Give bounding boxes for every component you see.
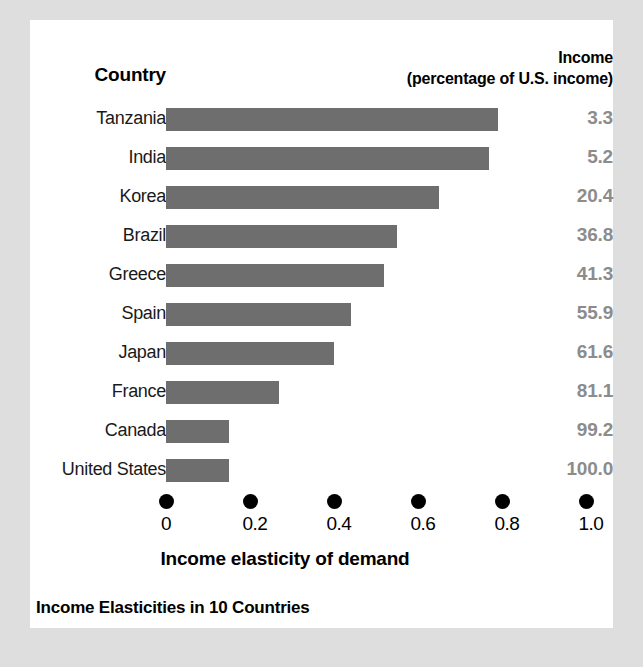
x-axis-tick-dot bbox=[411, 494, 426, 509]
row-value-income: 5.2 bbox=[485, 146, 613, 168]
row-value-income: 100.0 bbox=[485, 458, 613, 480]
row-label-country: United States bbox=[30, 459, 166, 480]
x-axis-tick: 0 bbox=[159, 494, 174, 535]
row-value-income: 81.1 bbox=[485, 380, 613, 402]
x-axis-tick: 0.4 bbox=[327, 494, 342, 535]
bar bbox=[166, 303, 351, 326]
row-label-country: Spain bbox=[30, 303, 166, 324]
row-label-country: Japan bbox=[30, 342, 166, 363]
row-value-income: 3.3 bbox=[485, 107, 613, 129]
x-axis-tick-dot bbox=[579, 494, 594, 509]
bar bbox=[166, 342, 334, 365]
x-axis-tick-label: 0 bbox=[159, 513, 174, 535]
chart-row: Greece41.3 bbox=[30, 259, 613, 298]
bar bbox=[166, 459, 229, 482]
row-value-income: 20.4 bbox=[485, 185, 613, 207]
chart-row: Japan61.6 bbox=[30, 337, 613, 376]
row-value-income: 36.8 bbox=[485, 224, 613, 246]
x-axis-title: Income elasticity of demand bbox=[30, 548, 540, 570]
x-axis-tick-label: 0.4 bbox=[327, 513, 342, 535]
income-header-line-1: Income bbox=[285, 47, 613, 68]
chart-row: Spain55.9 bbox=[30, 298, 613, 337]
x-axis-tick: 1.0 bbox=[579, 494, 594, 535]
row-label-country: Canada bbox=[30, 420, 166, 441]
chart-row: United States100.0 bbox=[30, 454, 613, 493]
x-axis-tick-dot bbox=[159, 494, 174, 509]
bar bbox=[166, 264, 384, 287]
bar bbox=[166, 381, 279, 404]
x-axis-tick-dot bbox=[243, 494, 258, 509]
x-axis: 00.20.40.60.81.0 bbox=[166, 494, 613, 546]
row-label-country: India bbox=[30, 147, 166, 168]
x-axis-tick: 0.2 bbox=[243, 494, 258, 535]
bar bbox=[166, 147, 489, 170]
chart-row: Tanzania3.3 bbox=[30, 103, 613, 142]
chart-header: Country Income (percentage of U.S. incom… bbox=[30, 20, 613, 100]
x-axis-tick-dot bbox=[495, 494, 510, 509]
row-label-country: France bbox=[30, 381, 166, 402]
x-axis-tick-label: 1.0 bbox=[579, 513, 594, 535]
row-value-income: 41.3 bbox=[485, 263, 613, 285]
x-axis-tick-dot bbox=[327, 494, 342, 509]
bar bbox=[166, 420, 229, 443]
x-axis-tick: 0.8 bbox=[495, 494, 510, 535]
chart-row: Brazil36.8 bbox=[30, 220, 613, 259]
chart-panel: Country Income (percentage of U.S. incom… bbox=[30, 20, 613, 628]
bar bbox=[166, 108, 498, 131]
row-label-country: Tanzania bbox=[30, 108, 166, 129]
row-value-income: 55.9 bbox=[485, 302, 613, 324]
chart-rows: Tanzania3.3India5.2Korea20.4Brazil36.8Gr… bbox=[30, 103, 613, 493]
income-header-line-2: (percentage of U.S. income) bbox=[285, 68, 613, 89]
chart-caption: Income Elasticities in 10 Countries bbox=[36, 598, 596, 618]
x-axis-tick: 0.6 bbox=[411, 494, 426, 535]
x-axis-tick-label: 0.2 bbox=[243, 513, 258, 535]
row-label-country: Brazil bbox=[30, 225, 166, 246]
row-label-country: Korea bbox=[30, 186, 166, 207]
row-value-income: 99.2 bbox=[485, 419, 613, 441]
row-label-country: Greece bbox=[30, 264, 166, 285]
chart-row: Canada99.2 bbox=[30, 415, 613, 454]
chart-row: France81.1 bbox=[30, 376, 613, 415]
chart-row: India5.2 bbox=[30, 142, 613, 181]
column-header-income: Income (percentage of U.S. income) bbox=[285, 47, 613, 89]
bar bbox=[166, 225, 397, 248]
bar bbox=[166, 186, 439, 209]
chart-row: Korea20.4 bbox=[30, 181, 613, 220]
x-axis-tick-label: 0.6 bbox=[411, 513, 426, 535]
x-axis-tick-label: 0.8 bbox=[495, 513, 510, 535]
column-header-country: Country bbox=[30, 64, 166, 86]
row-value-income: 61.6 bbox=[485, 341, 613, 363]
